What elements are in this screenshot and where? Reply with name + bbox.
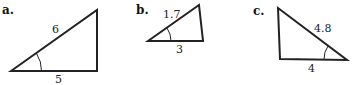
triangle-b: b. 1.7 3: [136, 3, 203, 56]
base-label-b: 3: [176, 43, 183, 56]
angle-arc-c: [324, 46, 328, 60]
hypotenuse-label-b: 1.7: [163, 8, 181, 21]
hypotenuse-label-a: 6: [52, 23, 59, 36]
part-label-a: a.: [2, 3, 14, 17]
base-label-a: 5: [55, 73, 62, 85]
triangle-a-shape: [11, 10, 97, 71]
angle-arc-b: [167, 28, 171, 41]
base-label-c: 4: [308, 62, 315, 75]
triangle-a: a. 6 5: [2, 3, 97, 85]
triangle-c-shape: [278, 8, 347, 60]
triangles-diagram: a. 6 5 b. 1.7 3 c. 4.8 4: [0, 0, 358, 85]
hypotenuse-label-c: 4.8: [314, 22, 332, 35]
angle-arc-a: [37, 54, 42, 72]
part-label-b: b.: [136, 3, 149, 17]
triangle-c: c. 4.8 4: [253, 4, 347, 75]
part-label-c: c.: [253, 4, 264, 18]
